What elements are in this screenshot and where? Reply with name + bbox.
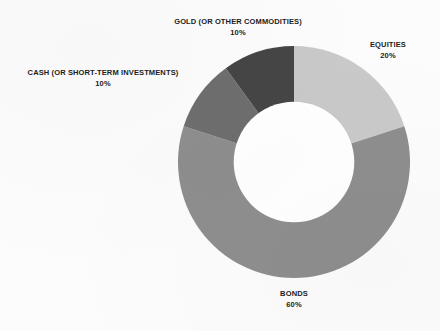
slice-label-gold-name: GOLD (OR OTHER COMMODITIES) — [174, 17, 302, 26]
slice-label-bonds: BONDS 60% — [242, 288, 346, 311]
slice-label-gold: GOLD (OR OTHER COMMODITIES) 10% — [158, 16, 318, 39]
slice-label-gold-value: 10% — [158, 27, 318, 38]
chart-canvas: GOLD (OR OTHER COMMODITIES) 10% EQUITIES… — [0, 0, 440, 331]
slice-label-bonds-name: BONDS — [280, 289, 308, 298]
donut-center-hole — [234, 102, 355, 223]
slice-label-equities: EQUITIES 20% — [342, 39, 435, 62]
slice-label-cash-value: 10% — [15, 78, 192, 89]
slice-label-cash-name: CASH (OR SHORT-TERM INVESTMENTS) — [28, 68, 179, 77]
slice-label-equities-value: 20% — [342, 50, 435, 61]
slice-label-cash: CASH (OR SHORT-TERM INVESTMENTS) 10% — [15, 67, 192, 90]
slice-label-bonds-value: 60% — [242, 299, 346, 310]
slice-label-equities-name: EQUITIES — [370, 40, 406, 49]
